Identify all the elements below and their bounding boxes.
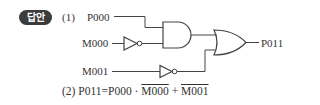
- wire-p000: [114, 17, 163, 28]
- expr-term1: P000: [108, 85, 132, 97]
- expr-term2: M000: [141, 85, 168, 97]
- not-gate-m001: [160, 66, 172, 78]
- part2-number: (2): [62, 85, 75, 97]
- expr-plus: +: [172, 85, 179, 97]
- not-gate-m000: [124, 37, 137, 50]
- expr-dot: ·: [135, 85, 139, 97]
- expr-lhs: P011: [78, 85, 101, 97]
- boolean-expression: (2) P011=P000 · M000 + M001: [62, 85, 209, 97]
- and-gate: [163, 22, 191, 48]
- or-gate: [214, 30, 246, 55]
- wire-m001-out: [177, 50, 216, 72]
- expr-term3: M001: [181, 85, 208, 97]
